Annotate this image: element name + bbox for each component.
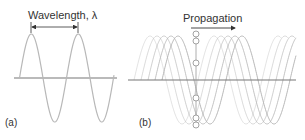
panel-label-a: (a) [5,117,17,128]
particle-marker [193,60,199,66]
panel-b: Propagation (b) [128,12,296,128]
panel-label-b: (b) [139,117,151,128]
particle-marker [193,95,199,101]
wave-diagram: Wavelength, λ (a) Propagation (b) [0,0,305,140]
particle-marker [193,115,199,121]
particle-marker [193,31,199,37]
wavelength-label: Wavelength, λ [28,9,98,21]
panel-a: Wavelength, λ (a) [5,9,117,128]
propagation-label: Propagation [183,12,242,24]
particle-marker [193,38,199,44]
particle-marker [193,122,199,128]
